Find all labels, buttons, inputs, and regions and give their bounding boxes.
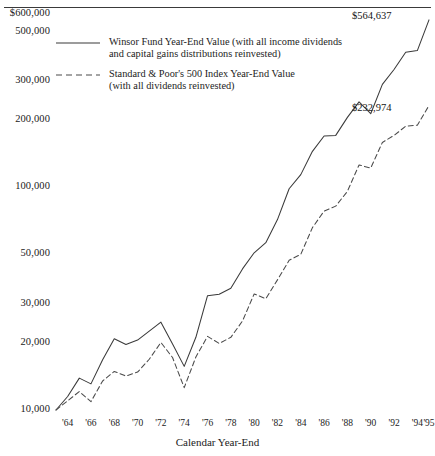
- y-tick-label-200000: 200,000: [15, 113, 50, 124]
- series-line-sp500: [56, 106, 429, 411]
- legend-item-sp500: Standard & Poor's 500 Index Year-End Val…: [56, 68, 356, 93]
- legend-label-sp500: Standard & Poor's 500 Index Year-End Val…: [109, 68, 356, 93]
- x-tick-label-1995: '95: [415, 418, 435, 428]
- chart-figure: $600,000500,000300,000200,000100,00050,0…: [0, 0, 435, 456]
- y-tick-label-20000: 20,000: [21, 336, 50, 347]
- legend-label-sp500-line1: Standard & Poor's 500 Index Year-End Val…: [109, 68, 295, 79]
- chart-legend: Winsor Fund Year-End Value (with all inc…: [56, 36, 356, 100]
- end-value-label-sp500: $232,974: [352, 102, 391, 113]
- end-value-label-winsor: $564,637: [352, 10, 391, 21]
- legend-label-winsor-line2: and capital gains distributions reinvest…: [109, 48, 281, 59]
- y-tick-label-10000: 10,000: [21, 403, 50, 414]
- y-tick-label-50000: 50,000: [21, 247, 50, 258]
- legend-item-winsor: Winsor Fund Year-End Value (with all inc…: [56, 36, 356, 61]
- y-tick-label-100000: 100,000: [15, 180, 50, 191]
- legend-label-winsor: Winsor Fund Year-End Value (with all inc…: [109, 36, 356, 61]
- x-axis-title: Calendar Year-End: [0, 436, 435, 448]
- legend-label-sp500-line2: (with all dividends reinvested): [109, 80, 235, 91]
- y-tick-label-600000: $600,000: [10, 7, 50, 18]
- y-tick-label-500000: 500,000: [15, 25, 50, 36]
- legend-label-winsor-line1: Winsor Fund Year-End Value (with all inc…: [109, 36, 342, 47]
- y-tick-label-30000: 30,000: [21, 297, 50, 308]
- y-tick-label-300000: 300,000: [15, 74, 50, 85]
- legend-key-dashed-line: [56, 74, 100, 76]
- legend-key-solid-line: [56, 42, 100, 44]
